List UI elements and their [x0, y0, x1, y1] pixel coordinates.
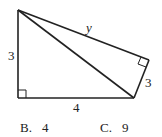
option-b: B.4	[20, 120, 48, 136]
geometry-figure: 3 y 3 4	[0, 0, 162, 137]
option-b-value: 4	[42, 120, 49, 136]
option-b-letter: B.	[20, 120, 32, 136]
label-left-side: 3	[8, 48, 15, 63]
option-c-letter: C.	[100, 120, 112, 136]
option-c-value: 9	[122, 120, 129, 136]
label-bottom-side: 4	[73, 100, 80, 115]
label-y: y	[84, 20, 92, 35]
right-angle-marker-bottom-left	[18, 90, 26, 98]
diagonal	[18, 10, 134, 98]
label-right-side: 3	[145, 75, 152, 90]
top-side-y	[18, 10, 149, 60]
option-c: C.9	[100, 120, 128, 136]
